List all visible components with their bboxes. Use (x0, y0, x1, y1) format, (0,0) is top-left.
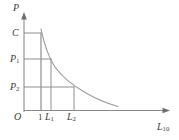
y-axis-label: P (13, 3, 19, 13)
y-tick-p1-subscript: 1 (16, 57, 19, 64)
y-tick-label-p2: P2 (10, 82, 20, 93)
y-axis-arrowhead (21, 12, 27, 20)
y-tick-c-base: C (12, 27, 19, 38)
figure-container: P L10 O C P1 P2 1 L1 L2 (0, 0, 179, 140)
origin-label: O (14, 112, 21, 122)
x-axis-label: L10 (157, 122, 169, 133)
demand-curve (41, 29, 118, 107)
x-tick-label-l2: L2 (67, 112, 76, 123)
diagram-canvas (0, 0, 179, 140)
curve-path (41, 29, 118, 107)
x-axis-label-subscript: 10 (163, 125, 170, 132)
x-tick-label-l1: L1 (45, 112, 54, 123)
vertical-guides (41, 33, 74, 111)
y-tick-label-p1: P1 (10, 54, 20, 65)
x-axis-arrowhead (163, 108, 171, 114)
y-tick-label-c: C (12, 28, 19, 39)
x-tick-l1-subscript: 1 (51, 115, 54, 122)
y-tick-p2-subscript: 2 (16, 85, 19, 92)
x-tick-l2-subscript: 2 (73, 115, 76, 122)
horizontal-guides (24, 33, 75, 87)
y-axis (21, 12, 27, 112)
x-tick-label-one: 1 (38, 113, 43, 122)
